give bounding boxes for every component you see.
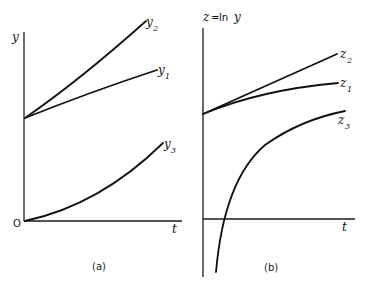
- y-axis-label-a: y: [11, 30, 19, 44]
- svg-text:y: y: [145, 15, 153, 29]
- label-y1: y 1: [157, 63, 170, 81]
- svg-text:2: 2: [346, 56, 352, 65]
- svg-text:ln: ln: [219, 12, 228, 23]
- svg-text:y: y: [157, 63, 165, 77]
- svg-text:3: 3: [171, 146, 176, 155]
- panel-b: z = ln y t z 2 z 1 z 3 (b): [202, 10, 355, 277]
- svg-text:1: 1: [165, 72, 170, 81]
- figure: y t O y 2 y 1 y 3 (a) z = ln y: [0, 0, 366, 287]
- origin-label: O: [13, 218, 21, 229]
- curve-z1: [203, 83, 338, 114]
- svg-text:z: z: [339, 76, 347, 90]
- svg-text:y: y: [163, 137, 171, 151]
- svg-text:z: z: [339, 47, 347, 61]
- label-y2: y 2: [145, 15, 158, 33]
- label-z1: z 1: [339, 76, 352, 94]
- caption-b: (b): [264, 262, 278, 273]
- t-axis-label-a: t: [172, 222, 177, 236]
- curve-y2: [25, 21, 146, 118]
- curve-z3: [216, 111, 345, 272]
- svg-text:z: z: [337, 113, 345, 127]
- t-axis-label-b: t: [342, 220, 347, 234]
- curve-y3: [25, 143, 163, 221]
- panel-a: y t O y 2 y 1 y 3 (a): [11, 15, 182, 272]
- label-z2: z 2: [339, 47, 352, 65]
- label-y3: y 3: [163, 137, 176, 155]
- svg-text:2: 2: [152, 24, 158, 33]
- curve-z2: [203, 54, 337, 114]
- label-z3: z 3: [337, 113, 350, 131]
- svg-text:z: z: [202, 10, 210, 24]
- svg-text:y: y: [233, 10, 241, 24]
- z-axis-label-b: z = ln y: [202, 10, 241, 24]
- svg-text:1: 1: [347, 85, 352, 94]
- curve-y1: [25, 70, 157, 118]
- caption-a: (a): [92, 261, 106, 272]
- svg-text:3: 3: [345, 122, 350, 131]
